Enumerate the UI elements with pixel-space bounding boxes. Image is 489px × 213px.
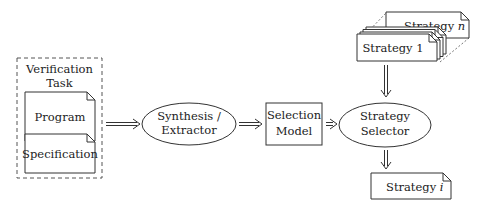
pipeline-diagram: Verification Task Program Specification … bbox=[0, 0, 489, 213]
verification-task-group: Verification Task Program Specification bbox=[17, 58, 102, 178]
double-arrow-down-icon bbox=[381, 150, 391, 169]
verification-task-title-1: Verification bbox=[25, 62, 93, 76]
strategy-selector-label-1: Strategy bbox=[360, 109, 411, 123]
program-label: Program bbox=[35, 110, 86, 124]
double-arrow-icon bbox=[239, 119, 262, 129]
selection-model-label-2: Model bbox=[276, 124, 313, 138]
strategy-selector-label-2: Selector bbox=[361, 124, 410, 138]
strategy-i-label: Strategy i bbox=[386, 180, 444, 194]
synthesis-extractor-node: Synthesis / Extractor bbox=[142, 103, 236, 145]
synthesis-label-1: Synthesis / bbox=[157, 109, 221, 123]
selection-model-node: Selection Model bbox=[266, 103, 322, 145]
verification-task-title-2: Task bbox=[46, 76, 74, 90]
strategy-1-label: Strategy 1 bbox=[362, 41, 423, 55]
selection-model-label-1: Selection bbox=[267, 108, 322, 122]
synthesis-label-2: Extractor bbox=[161, 123, 217, 137]
specification-label: Specification bbox=[22, 147, 98, 161]
double-arrow-icon bbox=[326, 119, 337, 129]
strategy-i-document: Strategy i bbox=[371, 173, 451, 199]
strategy-selector-node: Strategy Selector bbox=[339, 103, 431, 147]
double-arrow-down-icon bbox=[381, 65, 391, 97]
specification-document: Specification bbox=[22, 134, 98, 173]
double-arrow-icon bbox=[106, 119, 140, 129]
strategy-1-document: Strategy 1 bbox=[357, 34, 437, 61]
